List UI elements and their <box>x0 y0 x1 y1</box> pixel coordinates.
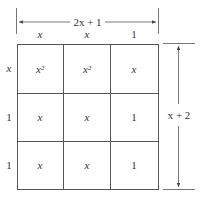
top-dimension-label: 2x + 1 <box>73 16 101 28</box>
column-header: x <box>84 28 90 40</box>
cell-r1-c1: x² <box>35 63 45 75</box>
cell-r1-c3: x <box>131 63 137 75</box>
side-dimension: x + 2 <box>163 44 195 190</box>
row-header: 1 <box>6 111 12 123</box>
column-header: x <box>37 28 43 40</box>
cell-r2-c2: x <box>84 111 90 123</box>
cell-r1-c2: x² <box>82 63 92 75</box>
row-header: 1 <box>6 159 12 171</box>
cell-r2-c1: x <box>37 111 43 123</box>
cell-r3-c1: x <box>37 159 43 171</box>
cell-r3-c2: x <box>84 159 90 171</box>
column-header: 1 <box>131 28 137 40</box>
row-header: x <box>6 62 12 74</box>
cell-r2-c3: 1 <box>131 111 137 123</box>
cell-r3-c3: 1 <box>131 159 137 171</box>
side-dimension-label: x + 2 <box>168 109 191 121</box>
area-model-diagram: 2x + 1 x x 1 x 1 1 x² x² x x x 1 x x 1 x… <box>0 0 203 202</box>
